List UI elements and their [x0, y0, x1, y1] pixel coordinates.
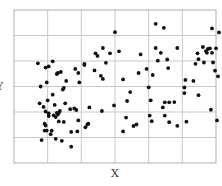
data-point: [196, 51, 200, 55]
data-point: [184, 78, 188, 82]
data-point: [75, 130, 79, 134]
data-point: [161, 106, 165, 110]
y-axis-label: Y: [0, 80, 4, 93]
data-point: [39, 85, 43, 89]
data-point: [147, 85, 151, 89]
data-point: [201, 45, 205, 49]
data-point: [175, 124, 179, 128]
data-point: [46, 98, 50, 102]
data-point: [60, 139, 64, 143]
scatter-chart: X Y: [0, 0, 222, 186]
data-point: [125, 99, 129, 103]
data-point: [53, 103, 57, 107]
data-point: [42, 105, 46, 109]
data-point: [50, 129, 54, 133]
data-point: [73, 67, 77, 71]
data-point: [149, 98, 153, 102]
data-point: [47, 65, 51, 69]
data-point: [183, 86, 187, 90]
data-point: [62, 86, 66, 90]
data-point: [83, 63, 87, 67]
data-point: [49, 132, 53, 136]
data-point: [208, 46, 212, 50]
data-point: [145, 67, 149, 71]
data-point: [101, 77, 105, 81]
data-point: [202, 61, 206, 65]
data-point: [166, 66, 170, 70]
data-point: [57, 120, 61, 124]
data-point: [117, 49, 121, 53]
data-point: [40, 138, 44, 142]
data-point: [87, 122, 91, 126]
data-point: [45, 81, 49, 85]
data-point: [156, 59, 160, 63]
data-point: [148, 114, 152, 118]
data-point: [96, 54, 100, 58]
data-point: [214, 46, 218, 50]
data-point: [101, 46, 105, 50]
data-point: [175, 46, 179, 50]
data-point: [121, 78, 125, 82]
data-point: [64, 79, 68, 83]
data-point: [194, 62, 198, 66]
data-point: [154, 22, 158, 26]
data-point: [154, 46, 158, 50]
data-point: [104, 61, 108, 65]
data-point: [100, 109, 104, 113]
data-point: [54, 137, 58, 141]
data-point: [150, 119, 154, 123]
data-point: [45, 129, 49, 133]
data-point: [183, 91, 187, 95]
data-point: [162, 26, 166, 30]
data-point: [108, 51, 112, 55]
data-point: [159, 51, 163, 55]
data-point: [163, 100, 167, 104]
data-point: [210, 51, 214, 55]
data-point: [197, 57, 201, 61]
data-point: [47, 114, 51, 118]
data-point: [68, 107, 72, 111]
data-point: [197, 93, 201, 97]
data-point: [113, 30, 117, 34]
data-point: [167, 100, 171, 104]
data-point: [165, 58, 169, 62]
data-point: [172, 100, 176, 104]
data-point: [213, 69, 217, 73]
data-point: [69, 130, 73, 134]
data-point: [36, 61, 40, 65]
data-point: [211, 61, 215, 65]
data-point: [38, 101, 42, 105]
data-point: [216, 74, 220, 78]
data-point: [151, 73, 155, 77]
data-point: [44, 124, 48, 128]
x-axis-label: X: [111, 167, 119, 180]
data-point: [185, 120, 189, 124]
data-point: [135, 123, 139, 127]
data-point: [215, 119, 219, 123]
data-point: [58, 109, 62, 113]
data-point: [205, 51, 209, 55]
data-point: [74, 108, 78, 112]
data-point: [59, 70, 63, 74]
data-point: [137, 71, 141, 75]
data-point: [124, 116, 128, 120]
data-point: [121, 130, 125, 134]
data-point: [167, 120, 171, 124]
data-point: [88, 106, 92, 110]
data-point: [63, 101, 67, 105]
data-point: [217, 31, 221, 35]
data-point: [93, 69, 97, 73]
data-point: [128, 90, 132, 94]
data-point: [210, 27, 214, 31]
data-point: [192, 79, 196, 83]
data-point: [51, 59, 55, 63]
data-point: [209, 108, 213, 112]
data-point: [139, 53, 143, 57]
data-point: [62, 120, 66, 124]
data-point: [112, 104, 116, 108]
data-point: [76, 71, 80, 75]
data-point: [69, 145, 73, 149]
data-point: [51, 93, 55, 97]
data-point: [163, 114, 167, 118]
data-point: [76, 119, 80, 123]
